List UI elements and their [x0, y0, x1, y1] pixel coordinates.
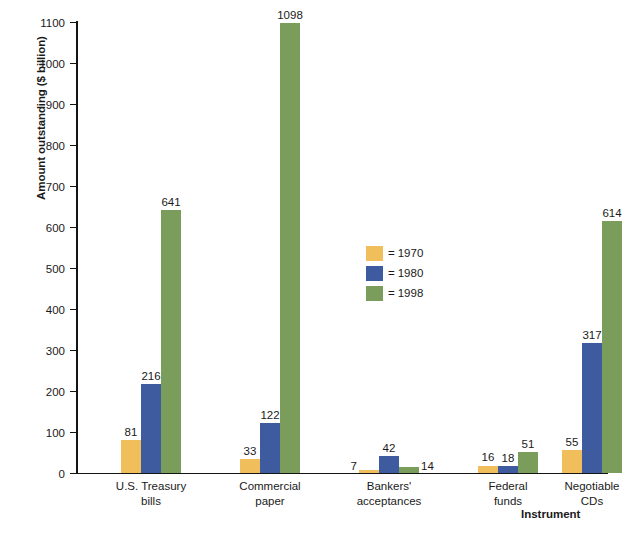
bar-value-label: 216 — [141, 370, 160, 382]
legend-swatch-1970 — [366, 246, 383, 261]
bar-1980-federal-funds[interactable]: 18 — [498, 466, 518, 473]
bar-1970-federal-funds[interactable]: 16 — [478, 466, 498, 473]
bar-value-label: 51 — [522, 438, 535, 450]
bar-group: 55317614 — [562, 22, 622, 473]
bar-value-label: 14 — [421, 460, 434, 472]
bar-value-label: 42 — [383, 442, 396, 454]
category-label: Bankers'acceptances — [329, 479, 449, 508]
legend-item-1998[interactable]: =1998 — [366, 284, 423, 302]
legend-item-1970[interactable]: =1970 — [366, 244, 423, 262]
bar-1980-negotiable-cds[interactable]: 317 — [582, 343, 602, 473]
bar-wrapper: 216 — [141, 22, 161, 473]
bar-chart: Amount outstanding ($ billion) 010020030… — [0, 0, 643, 538]
bar-1970-negotiable-cds[interactable]: 55 — [562, 450, 582, 473]
y-tick-label: 1100 — [40, 17, 65, 29]
y-tick-mark: 300 — [70, 350, 76, 351]
bar-value-label: 641 — [161, 196, 180, 208]
bar-1980-bankers-acceptances[interactable]: 42 — [379, 456, 399, 473]
bar-value-label: 18 — [502, 452, 515, 464]
y-tick-mark: 500 — [70, 268, 76, 269]
category-label-line: Negotiable — [532, 479, 643, 494]
bar-wrapper: 33 — [240, 22, 260, 473]
category-label: Commercialpaper — [210, 479, 330, 508]
y-tick-mark: 0 — [70, 473, 76, 474]
bar-1980-u-s-treasury-bills[interactable]: 216 — [141, 384, 161, 473]
bar-1970-bankers-acceptances[interactable]: 7 — [359, 470, 379, 473]
y-tick-mark: 400 — [70, 309, 76, 310]
bar-group: 161851 — [478, 22, 538, 473]
legend-equals-sign: = — [388, 267, 395, 279]
bar-value-label: 7 — [351, 460, 357, 472]
legend-label: 1998 — [398, 287, 424, 299]
legend-equals-sign: = — [388, 247, 395, 259]
bar-1998-bankers-acceptances[interactable]: 14 — [399, 467, 419, 473]
category-label-line: paper — [210, 494, 330, 509]
y-tick-mark: 700 — [70, 186, 76, 187]
legend-item-1980[interactable]: =1980 — [366, 264, 423, 282]
bar-group: 331221098 — [240, 22, 300, 473]
bar-1998-u-s-treasury-bills[interactable]: 641 — [161, 210, 181, 473]
bar-wrapper: 1098 — [280, 22, 300, 473]
y-tick-label: 500 — [46, 263, 65, 275]
bar-wrapper: 641 — [161, 22, 181, 473]
bar-wrapper: 51 — [518, 22, 538, 473]
y-tick-mark: 900 — [70, 104, 76, 105]
y-tick-label: 800 — [46, 140, 65, 152]
bar-wrapper: 55 — [562, 22, 582, 473]
category-label-line: Commercial — [210, 479, 330, 494]
y-tick-label: 200 — [46, 386, 65, 398]
y-tick-mark: 200 — [70, 391, 76, 392]
bar-value-label: 16 — [482, 451, 495, 463]
bar-value-label: 33 — [244, 445, 257, 457]
category-label-line: acceptances — [329, 494, 449, 509]
bar-value-label: 55 — [566, 436, 579, 448]
y-tick-label: 900 — [46, 99, 65, 111]
bar-value-label: 614 — [602, 207, 621, 219]
category-label: NegotiableCDs — [532, 479, 643, 508]
x-axis-title: Instrument — [521, 508, 580, 520]
bar-1980-commercial-paper[interactable]: 122 — [260, 423, 280, 473]
y-tick-mark: 1100 — [70, 22, 76, 23]
y-tick-mark: 600 — [70, 227, 76, 228]
bar-1998-negotiable-cds[interactable]: 614 — [602, 221, 622, 473]
bar-value-label: 1098 — [277, 9, 303, 21]
bar-wrapper: 614 — [602, 22, 622, 473]
bar-wrapper: 122 — [260, 22, 280, 473]
bar-wrapper: 18 — [498, 22, 518, 473]
bar-1970-u-s-treasury-bills[interactable]: 81 — [121, 440, 141, 473]
bar-1998-federal-funds[interactable]: 51 — [518, 452, 538, 473]
category-label-line: bills — [91, 494, 211, 509]
bar-group: 81216641 — [121, 22, 181, 473]
y-tick-label: 600 — [46, 222, 65, 234]
legend: =1970=1980=1998 — [366, 244, 423, 304]
legend-label: 1980 — [398, 267, 424, 279]
bar-1998-commercial-paper[interactable]: 1098 — [280, 23, 300, 473]
legend-swatch-1980 — [366, 266, 383, 281]
y-tick-label: 100 — [46, 427, 65, 439]
y-tick-label: 0 — [59, 468, 65, 480]
category-label-line: CDs — [532, 494, 643, 509]
category-label: U.S. Treasurybills — [91, 479, 211, 508]
y-tick-mark: 1000 — [70, 63, 76, 64]
legend-equals-sign: = — [388, 287, 395, 299]
category-label-line: Bankers' — [329, 479, 449, 494]
category-label-line: U.S. Treasury — [91, 479, 211, 494]
legend-swatch-1998 — [366, 286, 383, 301]
bar-wrapper: 81 — [121, 22, 141, 473]
y-tick-mark: 800 — [70, 145, 76, 146]
legend-label: 1970 — [398, 247, 424, 259]
plot-area: 010020030040050060070080090010001100 812… — [76, 22, 608, 473]
y-tick-label: 1000 — [39, 58, 65, 70]
y-tick-label: 700 — [46, 181, 65, 193]
bar-wrapper: 317 — [582, 22, 602, 473]
y-tick-label: 300 — [46, 345, 65, 357]
bar-value-label: 317 — [582, 329, 601, 341]
y-tick-mark: 100 — [70, 432, 76, 433]
bar-value-label: 81 — [125, 426, 138, 438]
bar-wrapper: 16 — [478, 22, 498, 473]
bar-value-label: 122 — [260, 409, 279, 421]
bar-1970-commercial-paper[interactable]: 33 — [240, 459, 260, 473]
y-tick-label: 400 — [46, 304, 65, 316]
